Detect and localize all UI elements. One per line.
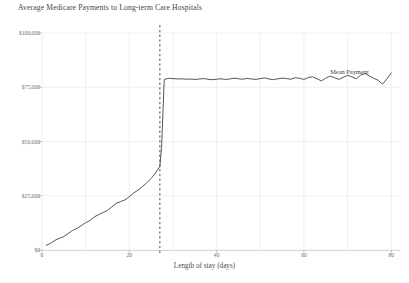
y-axis-tick-label: $100,000 [2, 30, 40, 36]
chart-container: Average Medicare Payments to Long-term C… [0, 0, 409, 283]
tick-marks [39, 33, 391, 253]
x-axis-tick-label: 80 [388, 252, 394, 258]
y-axis-tick-label: $25,000 [2, 193, 40, 199]
series-annotation-mean-payment: Mean Payment [330, 68, 369, 75]
x-axis-tick-label: 0 [41, 252, 44, 258]
data-series-line [46, 73, 391, 245]
plot-area [0, 0, 409, 283]
horizontal-gridlines [42, 33, 400, 250]
x-axis-tick-label: 60 [301, 252, 307, 258]
x-axis-title: Length of stay (days) [0, 262, 409, 270]
y-axis-tick-labels: $0$25,000$50,000$75,000$100,000 [0, 0, 40, 283]
y-axis-tick-label: $50,000 [2, 139, 40, 145]
y-axis-tick-label: $75,000 [2, 84, 40, 90]
y-axis-tick-label: $0 [2, 247, 40, 253]
x-axis-tick-label: 40 [214, 252, 220, 258]
x-axis-tick-label: 20 [127, 252, 133, 258]
